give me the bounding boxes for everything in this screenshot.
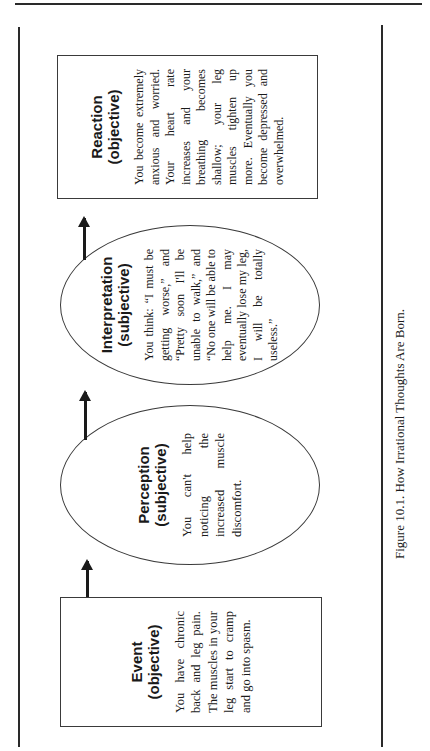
figure-frame-right (381, 25, 383, 747)
event-text: You have chronic back and leg pain. The … (172, 611, 255, 713)
reaction-box: Reaction (objective) You become extremel… (57, 55, 318, 199)
event-title: Event (128, 642, 145, 683)
figure-landscape: Event (objective) You have chronic back … (0, 0, 430, 751)
figure-caption: Figure 10.1. How Irrational Thoughts Are… (392, 309, 408, 559)
event-box: Event (objective) You have chronic back … (60, 597, 322, 727)
arrow-event-to-perception (86, 561, 89, 597)
interpretation-ellipse: Interpretation (subjective) You think: “… (60, 225, 320, 385)
reaction-title: Reaction (88, 95, 105, 158)
event-subtitle: (objective) (145, 625, 162, 700)
perception-subtitle: (subjective) (152, 443, 169, 526)
interpretation-title: Interpretation (98, 257, 115, 354)
arrow-perception-to-interpretation (84, 392, 87, 440)
perception-title: Perception (135, 446, 152, 524)
perception-text: You can't help noticing the increased mu… (179, 433, 245, 537)
perception-ellipse: Perception (subjective) You can't help n… (60, 405, 320, 565)
interpretation-subtitle: (subjective) (115, 263, 132, 346)
figure-frame-left (18, 27, 20, 747)
reaction-text: You become extremely anxious and worried… (132, 69, 287, 185)
arrow-interpretation-to-reaction (83, 218, 86, 260)
reaction-subtitle: (objective) (105, 90, 122, 165)
interpretation-text: You think: “I must be getting worse,” an… (142, 249, 282, 361)
